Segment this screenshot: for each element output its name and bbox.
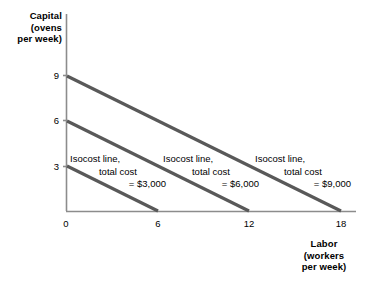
y-tick-label-6: 6 xyxy=(45,115,59,126)
y-axis-title-line-1: Capital xyxy=(30,10,62,21)
isocost-label-9000-line-2: total cost xyxy=(255,166,351,179)
x-tick-label-0: 0 xyxy=(58,218,74,229)
y-tick-label-9: 9 xyxy=(45,70,59,81)
isocost-label-6000: Isocost line, total cost = $6,000 xyxy=(163,153,259,191)
isocost-label-6000-line-1: Isocost line, xyxy=(163,153,259,166)
isocost-label-3000: Isocost line, total cost = $3,000 xyxy=(70,153,166,191)
x-tick-label-12: 12 xyxy=(241,218,257,229)
y-tick-label-3: 3 xyxy=(45,161,59,172)
isocost-label-9000: Isocost line, total cost = $9,000 xyxy=(255,153,351,191)
isocost-chart-figure: Capital (ovens per week) Labor (workers … xyxy=(0,0,365,287)
isocost-label-6000-line-2: total cost xyxy=(163,166,259,179)
x-tick-label-6: 6 xyxy=(150,218,166,229)
y-axis-title-line-3: per week) xyxy=(17,33,62,44)
isocost-label-9000-line-1: Isocost line, xyxy=(255,153,351,166)
isocost-label-3000-line-1: Isocost line, xyxy=(70,153,166,166)
x-tick-label-18: 18 xyxy=(333,218,349,229)
y-axis-title-line-2: (ovens xyxy=(31,22,62,33)
isocost-label-3000-line-3: = $3,000 xyxy=(70,178,166,191)
isocost-label-6000-line-3: = $6,000 xyxy=(163,178,259,191)
isocost-label-3000-line-2: total cost xyxy=(70,166,166,179)
x-axis-title-line-3: per week) xyxy=(302,261,347,272)
x-axis-title: Labor (workers per week) xyxy=(288,238,360,273)
isocost-label-9000-line-3: = $9,000 xyxy=(255,178,351,191)
x-axis-title-line-2: (workers xyxy=(304,250,344,261)
y-axis-title: Capital (ovens per week) xyxy=(4,10,62,45)
x-axis-title-line-1: Labor xyxy=(311,238,338,249)
